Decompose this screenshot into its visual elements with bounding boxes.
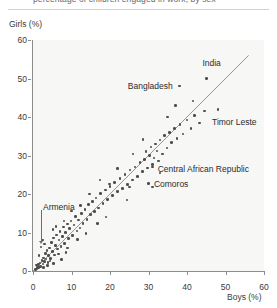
scatter-point [179, 123, 182, 126]
x-tick-label: 30 [144, 282, 153, 292]
annotation-arrowhead-icon [39, 241, 43, 244]
scatter-point [65, 251, 68, 254]
x-tick-mark [187, 272, 188, 275]
scatter-point [52, 228, 55, 231]
scatter-point [77, 219, 80, 222]
scatter-point [64, 231, 67, 234]
scatter-point [128, 186, 131, 189]
scatter-point [38, 254, 41, 257]
scatter-point [99, 179, 102, 182]
chart-figure: percentage of children engaged in work, … [0, 0, 277, 308]
annotation-label: Central African Republic [158, 164, 249, 174]
y-tick-label: 60 [3, 35, 27, 45]
scatter-point [116, 190, 119, 193]
x-tick-label-wrap: 60 [249, 276, 277, 294]
scatter-point [173, 127, 176, 130]
y-tick-label-wrap: 0 [0, 266, 27, 276]
scatter-point [66, 247, 69, 250]
scatter-point [178, 85, 181, 88]
scatter-point [57, 253, 60, 256]
scatter-point [52, 262, 55, 265]
scatter-point [141, 170, 144, 173]
y-tick-mark [28, 156, 31, 157]
annotation-label: India [202, 58, 220, 68]
scatter-point [168, 131, 171, 134]
scatter-point [151, 166, 154, 169]
scatter-point [109, 185, 112, 188]
scatter-point [49, 260, 52, 263]
scatter-point [73, 224, 76, 227]
scatter-point [63, 220, 66, 223]
scatter-point [61, 235, 64, 238]
y-tick-mark [28, 233, 31, 234]
scatter-point [161, 153, 164, 156]
x-tick-label-wrap: 10 [57, 276, 87, 294]
scatter-point [193, 114, 196, 117]
scatter-point [166, 147, 169, 150]
scatter-point [71, 234, 74, 237]
x-tick-label: 40 [182, 282, 191, 292]
scatter-point [146, 167, 149, 170]
x-tick-mark [33, 272, 34, 275]
y-tick-label: 10 [3, 228, 27, 238]
scatter-point [153, 157, 156, 160]
scatter-point [121, 187, 124, 190]
figure-title: percentage of children engaged in work, … [33, 0, 216, 4]
x-tick-label: 10 [67, 282, 76, 292]
scatter-point [126, 199, 129, 202]
scatter-point [59, 230, 62, 233]
x-tick-mark [149, 272, 150, 275]
scatter-point [116, 167, 119, 170]
scatter-point [43, 243, 46, 246]
x-tick-label-wrap: 40 [172, 276, 202, 294]
title-divider [8, 9, 269, 10]
x-tick-label: 0 [31, 282, 36, 292]
y-tick-mark [28, 271, 31, 272]
scatter-point [80, 212, 83, 215]
scatter-point [119, 177, 122, 180]
y-tick-label: 20 [3, 189, 27, 199]
y-tick-mark [28, 194, 31, 195]
y-tick-label-wrap: 60 [0, 35, 27, 45]
scatter-point [58, 239, 61, 242]
scatter-point [48, 247, 51, 250]
scatter-point [129, 169, 132, 172]
scatter-point [79, 204, 82, 207]
scatter-point [35, 264, 38, 267]
scatter-point [205, 77, 208, 80]
scatter-point [43, 260, 46, 263]
scatter-point [102, 202, 105, 205]
y-tick-label: 0 [3, 266, 27, 276]
scatter-point [53, 254, 56, 257]
scatter-point [55, 234, 58, 237]
y-tick-label-wrap: 30 [0, 151, 27, 161]
scatter-point [76, 238, 79, 241]
scatter-point [143, 158, 146, 161]
x-tick-label-wrap: 20 [95, 276, 125, 294]
scatter-point [93, 210, 96, 213]
scatter-point [132, 153, 135, 156]
scatter-point [42, 263, 45, 266]
scatter-point [46, 264, 49, 267]
scatter-point [166, 116, 169, 119]
y-tick-mark [28, 79, 31, 80]
scatter-point [150, 146, 153, 149]
scatter-point [62, 226, 65, 229]
scatter-point [88, 193, 91, 196]
scatter-point [154, 143, 157, 146]
scatter-point [136, 175, 139, 178]
scatter-point [89, 213, 92, 216]
scatter-point [142, 138, 145, 141]
scatter-point [131, 179, 134, 182]
y-tick-label-wrap: 50 [0, 74, 27, 84]
scatter-point [97, 207, 100, 210]
scatter-point [217, 108, 220, 111]
scatter-point [42, 266, 45, 269]
scatter-point [190, 127, 193, 130]
scatter-point [203, 110, 206, 113]
scatter-point [192, 100, 195, 103]
scatter-point [124, 173, 127, 176]
scatter-point [74, 215, 77, 218]
scatter-point [67, 237, 70, 240]
scatter-point [134, 166, 137, 169]
